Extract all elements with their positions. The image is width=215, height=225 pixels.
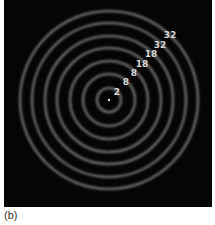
figure: 28818183232 (b): [0, 0, 215, 225]
ring-label-6: 32: [154, 41, 167, 50]
ring-label-1: 2: [114, 88, 120, 97]
ring-label-4: 18: [136, 60, 149, 69]
ring-label-3: 8: [131, 69, 137, 78]
ring-label-2: 8: [123, 78, 129, 87]
ring-label-7: 32: [164, 31, 177, 40]
concentric-rings-graphic: [4, 0, 212, 207]
center-dot: [108, 99, 110, 101]
figure-caption: (b): [4, 210, 17, 221]
ring-label-5: 18: [145, 50, 158, 59]
concentric-rings-panel: 28818183232: [4, 0, 212, 207]
